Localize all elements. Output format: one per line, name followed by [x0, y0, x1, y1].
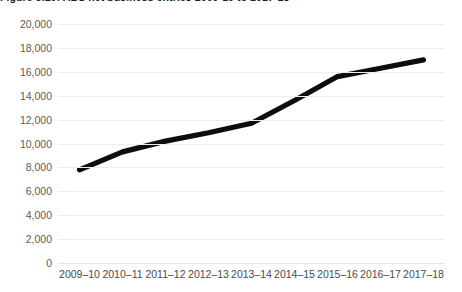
gridline [58, 239, 445, 240]
y-axis-tick-label: 16,000 [20, 66, 52, 78]
y-axis-tick-label: 14,000 [20, 90, 52, 102]
x-axis-tick-label: 2009–10 [59, 268, 100, 280]
y-axis-tick-label: 0 [46, 257, 52, 269]
x-axis-tick-label: 2013–14 [231, 268, 272, 280]
x-axis-tick-label: 2017–18 [403, 268, 444, 280]
y-axis-tick-label: 4,000 [26, 209, 52, 221]
gridline [58, 215, 445, 216]
x-axis-tick-label: 2011–12 [145, 268, 185, 280]
y-axis-tick-label: 12,000 [20, 114, 52, 126]
y-axis-tick-label: 2,000 [26, 233, 52, 245]
y-axis-tick-label: 10,000 [20, 138, 52, 150]
gridline [58, 263, 445, 264]
gridline [58, 48, 445, 49]
x-axis-tick-label: 2010–11 [102, 268, 142, 280]
gridline [58, 144, 445, 145]
gridline [58, 167, 445, 168]
x-axis-tick-label: 2015–16 [317, 268, 358, 280]
y-axis-tick-label: 20,000 [20, 18, 52, 30]
gridline [58, 191, 445, 192]
x-axis-tick-label: 2016–17 [360, 268, 401, 280]
gridline [58, 72, 445, 73]
x-axis-tick-labels: 2009–102010–112011–122012–132013–142014–… [58, 268, 445, 288]
y-axis-tick-label: 6,000 [26, 185, 52, 197]
y-axis-tick-labels: 02,0004,0006,0008,00010,00012,00014,0001… [0, 24, 52, 263]
gridline [58, 24, 445, 25]
x-axis-tick-label: 2014–15 [274, 268, 315, 280]
y-axis-tick-label: 18,000 [20, 42, 52, 54]
y-axis-tick-label: 8,000 [26, 161, 52, 173]
gridline [58, 120, 445, 121]
x-axis-tick-label: 2012–13 [188, 268, 229, 280]
plot-area [58, 24, 445, 263]
line-chart: 02,0004,0006,0008,00010,00012,00014,0001… [0, 0, 462, 292]
gridline [58, 96, 445, 97]
